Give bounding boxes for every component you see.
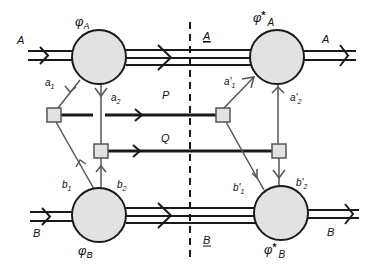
node-phi-A-star [250, 30, 304, 84]
line-B-right [307, 204, 359, 224]
line-B-left [30, 208, 73, 225]
label-a2-prime: a'2 [290, 92, 301, 105]
label-B-left: B [33, 227, 40, 239]
vertex-box-Q-left [94, 144, 108, 158]
label-B-cut: B [203, 234, 210, 246]
line-A-left [28, 47, 73, 64]
line-a1 [58, 80, 80, 108]
label-b1: b1 [62, 179, 72, 192]
line-P [61, 109, 216, 121]
diagram-canvas: φA φ*A φB φ*B A A B B A B P Q a1 a2 b1 b… [0, 0, 375, 276]
label-phi-A-star: φ*A [253, 10, 274, 28]
label-P: P [162, 89, 170, 101]
label-A-right: A [321, 33, 329, 45]
vertex-box-Q-right [272, 144, 286, 158]
label-phi-B: φB [78, 243, 93, 260]
label-b2: b2 [117, 179, 127, 192]
vertex-box-P-left [47, 108, 61, 122]
node-phi-A [72, 30, 126, 84]
label-phi-B-star: φ*B [264, 242, 285, 260]
node-phi-B-star [254, 186, 308, 240]
line-b1-prime [226, 122, 264, 190]
node-phi-B [72, 188, 126, 242]
label-a1-prime: a'1 [224, 76, 235, 89]
label-b1-prime: b'1 [233, 182, 244, 195]
label-B-right: B [327, 226, 334, 238]
label-A-left: A [16, 34, 24, 46]
line-A-right [303, 45, 356, 66]
label-phi-A: φA [75, 14, 90, 31]
label-b2-prime: b'2 [296, 177, 307, 190]
label-a1: a1 [45, 77, 55, 90]
vertex-box-P-right [216, 108, 230, 122]
label-Q: Q [161, 132, 170, 144]
label-a2: a2 [111, 92, 121, 105]
label-A-cut: A [202, 30, 210, 42]
